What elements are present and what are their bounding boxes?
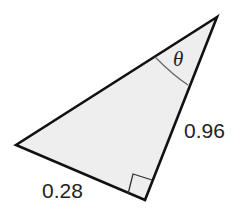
triangle-shape: [16, 17, 217, 200]
angle-label-theta: θ: [173, 49, 183, 70]
triangle-diagram: θ 0.96 0.28: [0, 0, 240, 212]
triangle-graphic: [0, 0, 240, 212]
side-label-right: 0.96: [184, 120, 225, 141]
side-label-bottom: 0.28: [42, 180, 83, 201]
